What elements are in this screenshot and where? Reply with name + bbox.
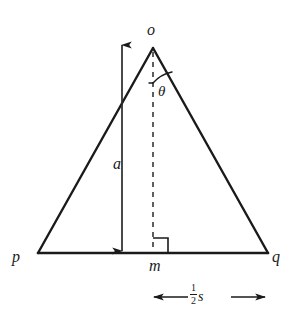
fraction-one-half: 1 2: [190, 283, 197, 306]
geometry-figure: o p q m a θ 1 2 s: [0, 0, 299, 321]
triangle-side-op: [38, 48, 153, 253]
vertex-label-p: p: [12, 249, 20, 265]
measure-variable-s: s: [198, 289, 203, 306]
fraction-numerator: 1: [190, 283, 197, 294]
half-base-measure-label: 1 2 s: [190, 283, 203, 306]
vertex-label-m: m: [149, 258, 161, 274]
right-angle-marker: [153, 238, 168, 253]
angle-label-theta: θ: [158, 84, 165, 99]
vertex-label-o: o: [147, 22, 155, 38]
vertex-label-q: q: [272, 249, 280, 265]
fraction-denominator: 2: [190, 296, 197, 307]
triangle-side-oq: [153, 48, 268, 253]
altitude-label-a: a: [113, 156, 121, 172]
